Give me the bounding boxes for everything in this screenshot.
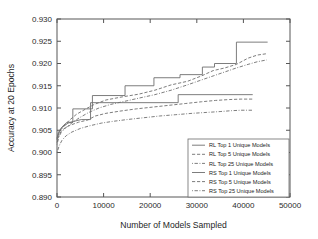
legend-label-0: RL Top 1 Unique Models	[209, 142, 270, 148]
chart-legend: RL Top 1 Unique ModelsRL Top 5 Unique Mo…	[188, 139, 289, 197]
x-axis-title: Number of Models Sampled	[120, 220, 227, 230]
legend-label-1: RL Top 5 Unique Models	[209, 151, 270, 157]
x-tick-label: 0	[55, 201, 60, 210]
y-tick-label: 0.910	[32, 104, 53, 113]
x-tick-label: 10000	[92, 201, 115, 210]
legend-label-5: RS Top 25 Unique Models	[209, 188, 274, 194]
x-tick-label: 50000	[279, 201, 302, 210]
y-tick-label: 0.925	[32, 37, 53, 46]
legend-label-4: RS Top 5 Unique Models	[209, 179, 271, 185]
chart-canvas: 0.8900.8950.9000.9050.9100.9150.9200.925…	[0, 0, 318, 239]
y-tick-label: 0.915	[32, 82, 53, 91]
y-tick-label: 0.930	[32, 15, 53, 24]
legend-label-2: RL Top 25 Unique Models	[209, 161, 273, 167]
y-axis-title: Accuracy at 20 Epochs	[6, 64, 16, 152]
series-line-0	[57, 42, 268, 138]
y-tick-label: 0.920	[32, 59, 53, 68]
chart-figure: 0.8900.8950.9000.9050.9100.9150.9200.925…	[0, 0, 318, 239]
series-line-1	[57, 54, 267, 140]
legend-label-3: RS Top 1 Unique Models	[209, 170, 271, 176]
x-tick-label: 20000	[139, 201, 162, 210]
series-line-3	[57, 95, 253, 139]
x-tick-label: 30000	[186, 201, 209, 210]
series-line-4	[57, 99, 253, 143]
y-tick-label: 0.900	[32, 148, 53, 157]
y-tick-label: 0.905	[32, 126, 53, 135]
y-tick-label: 0.890	[32, 193, 53, 202]
y-tick-label: 0.895	[32, 171, 53, 180]
x-tick-label: 40000	[232, 201, 255, 210]
data-series-group	[57, 42, 268, 152]
